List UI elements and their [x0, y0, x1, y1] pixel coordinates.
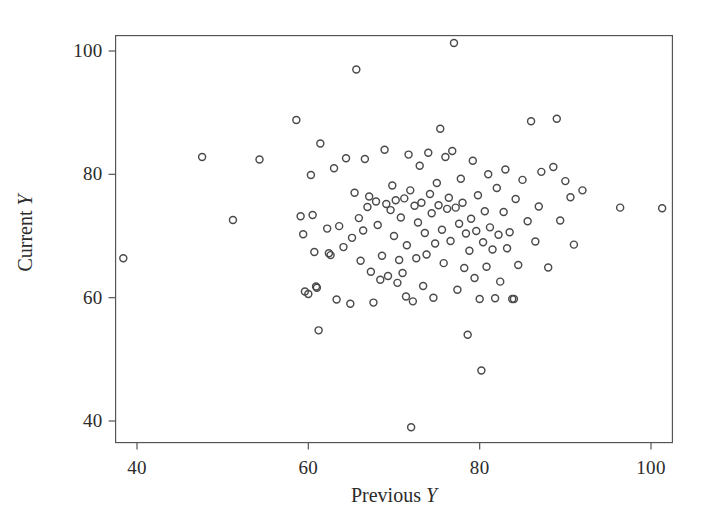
y-tick-label-40: 40: [60, 410, 103, 432]
x-axis-title: Previous Y: [351, 484, 437, 507]
y-tick-label-60: 60: [60, 287, 103, 309]
y-axis-title-variable: Y: [14, 194, 36, 205]
x-axis-title-variable: Y: [426, 484, 437, 506]
x-axis-title-text: Previous: [351, 484, 426, 506]
y-axis-title-text: Current: [14, 206, 36, 272]
y-tick-label-100: 100: [60, 40, 103, 62]
y-tick-label-80: 80: [60, 163, 103, 185]
x-tick-label-80: 80: [470, 457, 490, 479]
x-tick-label-100: 100: [636, 457, 665, 479]
y-axis-title: Current Y: [14, 194, 37, 271]
scatter-plot-figure: 406080100 406080100 Previous Y Current Y: [0, 0, 704, 530]
x-tick-label-40: 40: [127, 457, 147, 479]
plot-canvas: [0, 0, 704, 530]
x-tick-label-60: 60: [299, 457, 319, 479]
